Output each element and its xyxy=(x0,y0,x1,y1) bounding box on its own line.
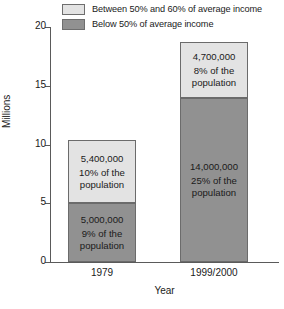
bar-1999-2000-top-value: 4,700,000 xyxy=(193,50,236,63)
y-tick-label-20: 20 xyxy=(35,20,46,32)
bar-1979-bottom-note: 9% of the population xyxy=(80,228,124,253)
bar-1979[interactable]: 5,400,000 10% of the population 5,000,00… xyxy=(68,140,136,262)
bar-1999-2000-bottom-note: 25% of the population xyxy=(191,175,237,200)
bar-1979-top-note-line1: 10% of the xyxy=(79,167,125,180)
legend-swatch-light-icon xyxy=(62,4,85,15)
legend-item-between-50-60: Between 50% and 60% of average income xyxy=(62,3,282,16)
x-axis-line xyxy=(50,262,279,263)
bar-1979-bottom-note-line2: population xyxy=(80,240,124,253)
bar-1979-top-note-line2: population xyxy=(79,179,125,192)
bar-1999-2000-bottom-note-line1: 25% of the xyxy=(191,175,237,188)
bar-1979-top-value: 5,400,000 xyxy=(81,152,124,165)
bar-1979-bottom-note-line1: 9% of the xyxy=(80,228,124,241)
bar-1999-2000-segment-below-50[interactable]: 14,000,000 25% of the population xyxy=(180,98,248,263)
x-tick-label-1979: 1979 xyxy=(68,267,136,279)
bar-1999-2000-bottom-note-line2: population xyxy=(191,187,237,200)
y-axis-title: Millions xyxy=(1,95,12,128)
bar-1999-2000-bottom-value: 14,000,000 xyxy=(190,160,238,173)
y-tick-label-15: 15 xyxy=(35,79,46,91)
stacked-bar-chart: Between 50% and 60% of average income Be… xyxy=(0,0,284,309)
y-axis-line xyxy=(50,27,51,263)
y-tick-label-0: 0 xyxy=(40,255,46,267)
x-axis-title: Year xyxy=(50,285,279,297)
y-tick-label-5: 5 xyxy=(40,196,46,208)
bar-1979-top-note: 10% of the population xyxy=(79,167,125,192)
plot-area: 20 15 10 5 0 5,400,000 10% of the popula… xyxy=(50,27,279,262)
bar-1999-2000-segment-between-50-60[interactable]: 4,700,000 8% of the population xyxy=(180,42,248,97)
bar-1999-2000-top-note-line1: 8% of the xyxy=(192,65,236,78)
bar-1979-bottom-value: 5,000,000 xyxy=(81,213,124,226)
bar-1999-2000[interactable]: 4,700,000 8% of the population 14,000,00… xyxy=(180,42,248,262)
bar-1999-2000-top-note-line2: population xyxy=(192,77,236,90)
x-tick-label-1999-2000: 1999/2000 xyxy=(174,267,254,279)
legend-label-between-50-60: Between 50% and 60% of average income xyxy=(92,4,262,15)
bar-1979-segment-between-50-60[interactable]: 5,400,000 10% of the population xyxy=(68,140,136,203)
bar-1979-segment-below-50[interactable]: 5,000,000 9% of the population xyxy=(68,203,136,262)
y-tick-label-10: 10 xyxy=(35,138,46,150)
bar-1999-2000-top-note: 8% of the population xyxy=(192,65,236,90)
